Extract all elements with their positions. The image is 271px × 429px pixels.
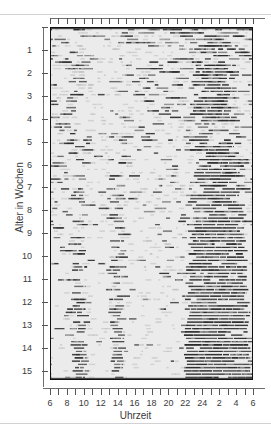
x-tick — [50, 18, 51, 24]
x-tick-label: 14 — [113, 398, 123, 408]
x-tick-label: 10 — [79, 398, 89, 408]
x-tick-label: 18 — [146, 398, 156, 408]
x-tick — [152, 18, 153, 24]
x-axis-tick-labels: 681012141618202224246 — [50, 389, 253, 403]
x-tick — [126, 18, 127, 24]
y-tick-label: 4 — [27, 114, 32, 124]
y-tick-label: 6 — [27, 160, 32, 170]
x-tick — [135, 18, 136, 24]
y-tick — [42, 371, 48, 372]
x-tick — [67, 18, 68, 24]
plot-area — [50, 27, 253, 380]
y-tick-label: 9 — [27, 228, 32, 238]
x-tick-label: 20 — [163, 398, 173, 408]
x-tick-label: 6 — [47, 398, 52, 408]
y-tick-label: 11 — [23, 274, 32, 284]
x-tick — [211, 18, 212, 24]
x-tick-label: 24 — [197, 398, 207, 408]
y-tick-label: 14 — [22, 343, 32, 353]
y-tick — [42, 325, 48, 326]
y-axis-title: Alter in Wochen — [14, 133, 25, 263]
y-tick-label: 5 — [27, 137, 32, 147]
x-tick — [177, 18, 178, 24]
x-tick — [109, 18, 110, 24]
y-tick — [42, 279, 48, 280]
y-tick — [42, 119, 48, 120]
y-tick — [42, 50, 48, 51]
y-tick — [42, 302, 48, 303]
y-axis-line — [43, 27, 44, 387]
x-axis-title: Uhrzeit — [0, 410, 271, 421]
x-tick — [253, 18, 254, 24]
x-tick — [58, 18, 59, 24]
x-tick — [143, 18, 144, 24]
x-tick — [84, 18, 85, 24]
x-tick — [160, 18, 161, 24]
y-tick — [42, 210, 48, 211]
y-tick-label: 1 — [27, 45, 32, 55]
y-tick-label: 12 — [22, 297, 32, 307]
x-tick — [185, 18, 186, 24]
y-tick — [42, 73, 48, 74]
y-tick-label: 2 — [27, 68, 32, 78]
y-tick — [42, 96, 48, 97]
y-tick — [42, 187, 48, 188]
x-tick — [253, 389, 254, 395]
x-tick — [75, 18, 76, 24]
x-tick-label: 16 — [130, 398, 140, 408]
y-tick-label: 8 — [27, 205, 32, 215]
y-tick — [42, 348, 48, 349]
actogram-raster — [51, 28, 252, 379]
x-tick — [202, 18, 203, 24]
x-tick-label: 12 — [96, 398, 106, 408]
x-tick — [219, 18, 220, 24]
y-tick — [42, 165, 48, 166]
y-tick — [42, 256, 48, 257]
x-axis-top-line — [50, 18, 265, 19]
actogram-figure: 681012141618202224246 123456789101112131… — [0, 0, 271, 429]
y-axis-ticks — [50, 27, 51, 380]
y-tick — [42, 27, 48, 28]
y-tick — [42, 233, 48, 234]
x-tick-label: 22 — [180, 398, 190, 408]
y-tick-label: 13 — [22, 320, 32, 330]
x-tick — [101, 18, 102, 24]
x-tick — [194, 18, 195, 24]
x-tick — [118, 18, 119, 24]
y-tick — [42, 142, 48, 143]
x-tick — [92, 18, 93, 24]
x-tick — [236, 18, 237, 24]
x-tick-label: 8 — [64, 398, 69, 408]
x-tick — [228, 18, 229, 24]
x-tick — [245, 18, 246, 24]
x-tick-label: 2 — [217, 398, 222, 408]
y-tick-label: 3 — [27, 91, 32, 101]
x-tick-label: 4 — [234, 398, 239, 408]
x-tick — [168, 18, 169, 24]
y-tick-label: 15 — [22, 366, 32, 376]
y-tick-label: 7 — [27, 182, 32, 192]
x-tick-label: 6 — [250, 398, 255, 408]
